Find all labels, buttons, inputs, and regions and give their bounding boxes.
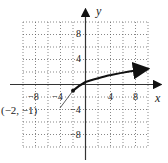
y-tick: −4 bbox=[70, 104, 81, 115]
y-tick: 8 bbox=[76, 28, 81, 39]
x-tick: −8 bbox=[28, 91, 39, 102]
x-axis-label: x bbox=[154, 91, 161, 105]
x-tick: −4 bbox=[52, 91, 63, 102]
point-label: (−2, −1) bbox=[1, 104, 38, 117]
x-tick: 8 bbox=[133, 91, 138, 102]
y-tick: 4 bbox=[76, 53, 81, 64]
y-tick: −8 bbox=[70, 129, 81, 140]
y-axis-label: y bbox=[95, 4, 102, 18]
x-tick: 4 bbox=[108, 91, 113, 102]
graph: y x −8 −4 4 8 8 4 −4 −8 (−2, −1) bbox=[0, 0, 168, 163]
